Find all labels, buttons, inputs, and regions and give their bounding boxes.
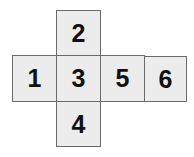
face-4: 4 [56,101,101,147]
face-6: 6 [144,56,187,102]
face-label: 4 [72,110,86,139]
face-2: 2 [56,10,101,56]
face-label: 3 [72,64,86,93]
face-3: 3 [56,55,101,102]
face-label: 5 [116,64,130,93]
face-label: 1 [28,64,42,93]
face-1: 1 [12,55,57,102]
face-label: 2 [72,19,86,48]
face-5: 5 [100,55,145,102]
face-label: 6 [159,65,173,94]
